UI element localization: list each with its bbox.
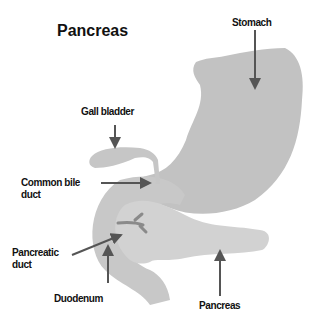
label-duodenum: Duodenum: [54, 293, 103, 305]
label-pancreas: Pancreas: [199, 300, 240, 312]
label-gall-bladder: Gall bladder: [81, 106, 134, 118]
anatomy-diagram: [0, 0, 316, 322]
label-common-bile-duct-line1: Common bile: [21, 177, 80, 189]
label-pancreatic-duct: Pancreatic duct: [12, 247, 59, 271]
label-pancreatic-duct-line2: duct: [12, 259, 59, 271]
diagram-title: Pancreas: [57, 22, 128, 40]
label-pancreatic-duct-line1: Pancreatic: [12, 247, 59, 259]
label-common-bile-duct-line2: duct: [21, 189, 80, 201]
label-stomach: Stomach: [232, 17, 271, 29]
label-common-bile-duct: Common bile duct: [21, 177, 80, 201]
